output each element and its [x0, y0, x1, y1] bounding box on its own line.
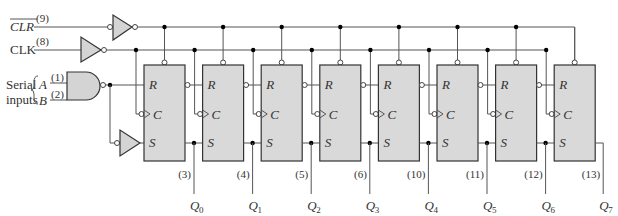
ff-r-label: R: [265, 77, 274, 92]
serial-inverter-icon: [120, 130, 140, 156]
clr-input-bubble: [108, 25, 113, 30]
ff-r-label: R: [500, 77, 509, 92]
ff-s-label: S: [442, 135, 449, 150]
flip-flop-chain: RCS(3)Q0RCS(4)Q1RCS(5)Q2RCS(6)Q3RCS(10)Q…: [134, 25, 613, 215]
input-a-pin: (1): [51, 71, 64, 84]
output-q-sub-4: 4: [433, 205, 438, 215]
output-q-sub-6: 6: [551, 205, 556, 215]
ff-r-label: R: [207, 77, 216, 92]
output-q-sub-7: 7: [608, 205, 613, 215]
input-b-label: B: [39, 93, 47, 108]
ff-r-label: R: [441, 77, 450, 92]
output-q-sub-1: 1: [258, 205, 263, 215]
output-pin-4: (10): [407, 168, 426, 181]
ff-c-label: C: [212, 107, 221, 122]
clk-pin: (8): [36, 35, 49, 48]
output-pin-1: (4): [237, 168, 250, 181]
ff-s-label: S: [266, 135, 273, 150]
ff-s-label: S: [325, 135, 332, 150]
input-a-label: A: [38, 77, 47, 92]
ff-r-label: R: [382, 77, 391, 92]
ff-s-label: S: [559, 135, 566, 150]
ff-c-label: C: [153, 107, 162, 122]
ff-r-label: R: [148, 77, 157, 92]
output-pin-3: (6): [354, 168, 367, 181]
shift-register-diagram: CLR (9) CLK (8) Serial inputs A B (1) (2…: [0, 0, 618, 216]
output-pin-0: (3): [178, 168, 191, 181]
clr-buffer-icon: [113, 15, 132, 40]
clk-input: CLK (8): [10, 35, 546, 62]
output-pin-2: (5): [295, 168, 308, 181]
ff-c-label: C: [563, 107, 572, 122]
ff-r-label: R: [558, 77, 567, 92]
output-pin-5: (11): [466, 168, 484, 181]
clr-pin: (9): [36, 12, 49, 25]
ff-s-label: S: [383, 135, 390, 150]
output-pin-7: (13): [582, 168, 601, 181]
ff-s-label: S: [208, 135, 215, 150]
clk-buffer-icon: [81, 37, 101, 62]
output-q-sub-2: 2: [316, 205, 321, 215]
output-q-sub-0: 0: [199, 205, 204, 215]
ff-c-label: C: [329, 107, 338, 122]
ff-r-label: R: [324, 77, 333, 92]
serial-label-line2: inputs: [6, 92, 38, 107]
ff-c-label: C: [446, 107, 455, 122]
ff-s-label: S: [149, 135, 156, 150]
serial-inputs: Serial inputs A B (1) (2): [6, 71, 144, 156]
nand-gate-icon: [67, 72, 100, 100]
ff-c-label: C: [387, 107, 396, 122]
ff-s-label: S: [501, 135, 508, 150]
output-pin-6: (12): [524, 168, 543, 181]
ff-c-label: C: [270, 107, 279, 122]
clk-label: CLK: [10, 42, 37, 57]
clr-label: CLR: [10, 19, 34, 34]
output-q-sub-5: 5: [492, 205, 497, 215]
output-q-sub-3: 3: [375, 205, 380, 215]
ff-c-label: C: [505, 107, 514, 122]
input-b-pin: (2): [51, 88, 64, 101]
clr-input: CLR (9): [10, 12, 575, 40]
